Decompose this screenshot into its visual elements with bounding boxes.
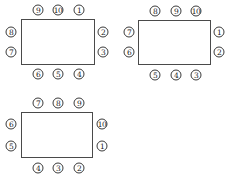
seat-number: 10 <box>191 6 202 17</box>
seat-number: 4 <box>171 70 182 81</box>
seat-number: 7 <box>6 47 17 58</box>
seat-number: 5 <box>53 69 64 80</box>
seat-number: 3 <box>191 70 202 81</box>
seat-number: 1 <box>97 141 108 152</box>
table-rectangle-2 <box>138 20 211 65</box>
seat-number: 5 <box>150 70 161 81</box>
seat-number: 1 <box>74 5 85 16</box>
seat-number: 5 <box>6 141 17 152</box>
seat-number: 3 <box>53 163 64 174</box>
seat-number: 10 <box>53 5 64 16</box>
seat-number: 7 <box>33 98 44 109</box>
seat-number: 6 <box>33 69 44 80</box>
seat-number: 10 <box>97 119 108 130</box>
seat-number: 2 <box>74 163 85 174</box>
seat-number: 9 <box>33 5 44 16</box>
seat-number: 3 <box>98 47 109 58</box>
seat-number: 8 <box>150 6 161 17</box>
seat-number: 6 <box>6 119 17 130</box>
seat-number: 4 <box>74 69 85 80</box>
seat-number: 8 <box>6 27 17 38</box>
seat-number: 6 <box>124 47 135 58</box>
seat-number: 8 <box>53 98 64 109</box>
seat-number: 7 <box>124 27 135 38</box>
seat-number: 2 <box>214 47 225 58</box>
table-rectangle-1 <box>21 19 95 65</box>
seat-number: 9 <box>171 6 182 17</box>
seat-number: 2 <box>98 27 109 38</box>
table-rectangle-3 <box>21 112 93 158</box>
seat-number: 9 <box>74 98 85 109</box>
seat-number: 4 <box>33 163 44 174</box>
seat-number: 1 <box>214 27 225 38</box>
